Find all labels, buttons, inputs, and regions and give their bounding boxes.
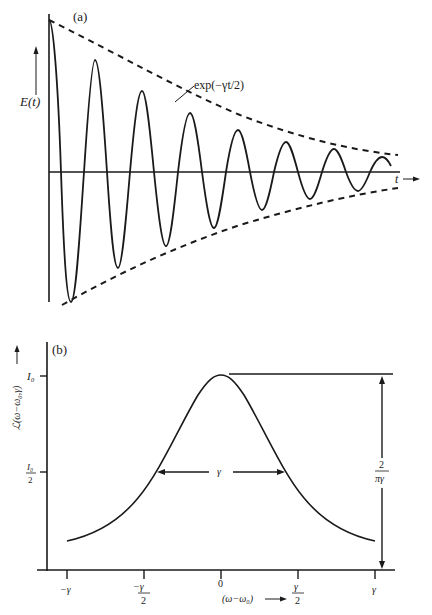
lorentzian-curve <box>67 375 375 541</box>
panel-a-label: (a) <box>73 9 87 24</box>
panel-a-ylabel: E(t) <box>19 94 40 109</box>
xtick-label-neg-half-gamma-num: −γ <box>133 581 145 592</box>
ylabel-arrow-icon <box>34 46 39 54</box>
panel-a: (a) E(t) exp(−γt/2) t <box>19 9 420 305</box>
panel-b-ylabel: ℒ(ω−ω₀,γ) <box>11 385 23 430</box>
fwhm-label: γ <box>217 466 222 477</box>
ytick-half-den: 2 <box>28 475 33 485</box>
xtick-label-half-gamma-num: γ <box>294 581 299 592</box>
ytick-top-label: I₀ <box>26 370 35 382</box>
height-arrow-down-icon <box>379 561 385 569</box>
xtick-label-half-gamma-den: 2 <box>295 595 300 606</box>
xtick-label-neg-gamma: −γ <box>60 584 72 595</box>
panel-b-ylabel-group: ℒ(ω−ω₀,γ) <box>11 345 23 430</box>
panel-b-xlabel-arrow-icon <box>280 597 287 602</box>
envelope-label: exp(−γt/2) <box>194 78 244 92</box>
panel-a-xlabel: t <box>395 172 399 186</box>
height-label-den: πγ <box>375 473 385 484</box>
ytick-half-num: I₀ <box>26 462 33 472</box>
xtick-label-gamma: γ <box>372 584 377 595</box>
height-label-num: 2 <box>379 459 384 470</box>
panel-b-label: (b) <box>52 342 67 357</box>
envelope-leader-line <box>175 86 194 102</box>
xtick-label-neg-half-gamma-den: 2 <box>141 595 146 606</box>
xtick-label-zero: 0 <box>218 578 223 589</box>
height-arrow-up-icon <box>379 376 385 384</box>
panel-b-ylabel-arrow-icon <box>15 345 20 352</box>
figure: (a) E(t) exp(−γt/2) t (b) I₀ I₀ 2 ℒ(ω−ω₀… <box>0 0 432 615</box>
xlabel-arrow-icon <box>413 177 420 182</box>
panel-b-xlabel: (ω−ω₀) <box>222 593 254 605</box>
panel-b: (b) I₀ I₀ 2 ℒ(ω−ω₀,γ) −γ −γ 2 0 <box>11 342 395 606</box>
damped-oscillation-curve <box>49 20 391 302</box>
